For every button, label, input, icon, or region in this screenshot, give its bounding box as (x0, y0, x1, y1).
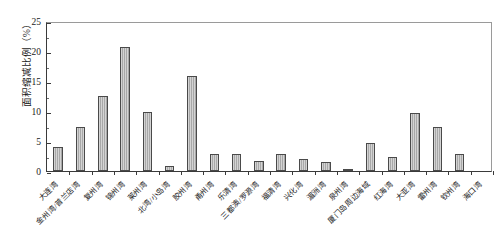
y-axis-minor-tick-mark (47, 98, 49, 99)
x-axis-tick-label: 钦州湾 (244, 180, 462, 248)
plot-area: 0510152025 (46, 22, 492, 172)
y-axis-tick-label: 25 (17, 18, 41, 28)
bar (410, 113, 420, 171)
x-axis-tick-mark (69, 171, 70, 175)
y-axis-tick-label: 10 (17, 108, 41, 118)
y-axis-minor-tick-mark (47, 68, 49, 69)
y-axis-minor-tick-mark (47, 38, 49, 39)
x-axis-tick-mark (136, 171, 137, 175)
x-axis-tick-mark (270, 171, 271, 175)
x-axis-tick-label: 大连湾 (0, 180, 60, 248)
y-axis-tick-mark (47, 83, 51, 84)
y-axis-tick-mark (47, 173, 51, 174)
y-axis-tick-mark (47, 23, 51, 24)
x-axis-tick-label: 福清湾 (65, 180, 283, 248)
x-axis-tick-label: 红海湾 (177, 180, 395, 248)
x-axis-tick-label: 胶州湾 (0, 180, 194, 248)
x-axis-tick-mark (359, 171, 360, 175)
x-axis-tick-mark (92, 171, 93, 175)
bar (120, 47, 130, 171)
x-axis-tick-label: 海口湾 (266, 180, 484, 248)
bar (165, 166, 175, 171)
x-axis-tick-label: 三都澳/罗源湾 (43, 180, 261, 248)
x-axis-tick-mark (203, 171, 204, 175)
bar (321, 162, 331, 171)
chart-figure: 面积缩减比例（%） 0510152025 大连湾金州湾/普兰店湾复州湾锦州湾莱州… (0, 0, 504, 248)
y-axis-tick-label: 20 (17, 48, 41, 58)
bar (143, 112, 153, 171)
x-axis-tick-mark (114, 171, 115, 175)
bar (187, 76, 197, 171)
bar (76, 127, 86, 171)
x-axis-tick-mark (493, 171, 494, 175)
bar (343, 169, 353, 171)
x-axis-tick-label: 大亚湾 (199, 180, 417, 248)
bar (232, 154, 242, 171)
bar (455, 154, 465, 171)
x-axis-tick-mark (337, 171, 338, 175)
x-axis-tick-mark (292, 171, 293, 175)
x-axis-tick-label: 金州湾/普兰店湾 (0, 180, 82, 248)
x-axis-tick-mark (248, 171, 249, 175)
x-axis-tick-label: 湄洲湾 (110, 180, 328, 248)
bar (388, 157, 398, 171)
bar (53, 147, 63, 171)
bar (433, 127, 443, 171)
bar (276, 154, 286, 171)
x-axis-tick-mark (471, 171, 472, 175)
x-axis-tick-mark (448, 171, 449, 175)
x-axis-tick-mark (382, 171, 383, 175)
x-axis-tick-mark (225, 171, 226, 175)
x-axis-tick-mark (315, 171, 316, 175)
y-axis-tick-label: 15 (17, 78, 41, 88)
x-axis-tick-mark (426, 171, 427, 175)
x-axis-tick-label: 雷州湾 (221, 180, 439, 248)
x-axis-tick-label: 莱州湾 (0, 180, 149, 248)
x-axis-tick-mark (181, 171, 182, 175)
y-axis-tick-label: 0 (17, 168, 41, 178)
y-axis-tick-mark (47, 143, 51, 144)
x-axis-tick-label: 北湾/小岛湾 (0, 180, 171, 248)
y-axis-tick-mark (47, 53, 51, 54)
y-axis-tick-mark (47, 113, 51, 114)
x-axis-tick-label: 锦州湾 (0, 180, 127, 248)
x-axis-tick-label: 甬州湾 (0, 180, 216, 248)
y-axis-minor-tick-mark (47, 158, 49, 159)
bar (254, 161, 264, 171)
x-axis-tick-label: 乐清湾 (21, 180, 239, 248)
x-axis-tick-mark (159, 171, 160, 175)
bar (366, 143, 376, 171)
bar (210, 154, 220, 171)
x-axis-tick-label: 厦门岛周边海域 (155, 180, 373, 248)
bar (98, 96, 108, 171)
x-axis-tick-mark (404, 171, 405, 175)
bar (299, 159, 309, 171)
x-axis-tick-label: 复州湾 (0, 180, 104, 248)
y-axis-tick-label: 5 (17, 138, 41, 148)
y-axis-minor-tick-mark (47, 128, 49, 129)
x-axis-tick-label: 兴化湾 (88, 180, 306, 248)
x-axis-tick-label: 泉州湾 (132, 180, 350, 248)
